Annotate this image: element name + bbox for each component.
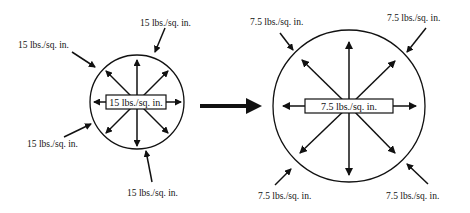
external-pressure-label-left: 15 lbs./sq. in. <box>18 40 69 50</box>
pressure-diagram: 15 lbs./sq. in. 15 lbs./sq. in. 15 lbs./… <box>0 0 470 213</box>
transition-arrow <box>200 98 262 114</box>
large-container: 7.5 lbs./sq. in. 7.5 lbs./sq. in. 7.5 lb… <box>250 13 440 201</box>
external-pressure-label-lower-left: 15 lbs./sq. in. <box>27 139 78 149</box>
internal-pressure-label-small: 15 lbs./sq. in. <box>109 97 163 108</box>
external-pressure-label-lower-left: 7.5 lbs./sq. in. <box>258 191 311 201</box>
small-container: 15 lbs./sq. in. 15 lbs./sq. in. 15 lbs./… <box>18 18 191 198</box>
right-arrow-icon <box>246 98 262 114</box>
external-pressure-label-upper-left: 7.5 lbs./sq. in. <box>250 17 303 27</box>
external-pressure-label-upper-right: 7.5 lbs./sq. in. <box>387 13 440 23</box>
external-pressure-label-bottom: 15 lbs./sq. in. <box>127 188 178 198</box>
external-pressure-label-lower-right: 7.5 lbs./sq. in. <box>386 191 439 201</box>
external-pressure-label-top: 15 lbs./sq. in. <box>140 18 191 28</box>
internal-pressure-label-large: 7.5 lbs./sq. in. <box>321 101 377 112</box>
